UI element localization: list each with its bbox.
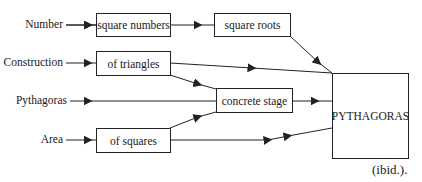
input-label-number: Number	[0, 19, 63, 31]
input-label-area: Area	[0, 134, 63, 146]
edge-squares-to-pythagoras	[170, 128, 332, 140]
node-square-numbers: square numbers	[96, 13, 171, 37]
edge-square-roots-to-pythagoras	[290, 36, 332, 73]
edge-triangles-to-concrete	[170, 75, 216, 89]
edge-squares-to-concrete	[170, 112, 216, 128]
input-label-construction: Construction	[0, 57, 63, 69]
input-label-pythagoras: Pythagoras	[0, 95, 67, 107]
node-of-squares: of squares	[96, 128, 171, 153]
citation: (ibid.).	[372, 162, 407, 178]
node-of-triangles: of triangles	[96, 51, 171, 76]
node-concrete-stage: concrete stage	[216, 88, 293, 113]
edge-triangles-to-pythagoras	[170, 63, 332, 73]
node-pythagoras-target: PYTHAGORAS	[332, 73, 409, 159]
node-square-roots: square roots	[214, 13, 291, 37]
